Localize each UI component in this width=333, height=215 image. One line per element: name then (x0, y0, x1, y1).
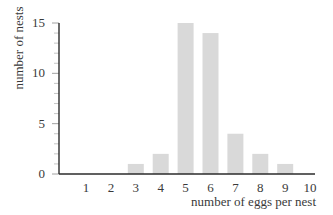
bar-8 (252, 154, 268, 174)
y-tick-label: 15 (32, 15, 45, 30)
x-tick-label: 3 (133, 180, 140, 195)
x-tick-label: 1 (83, 180, 90, 195)
bar-4 (153, 154, 169, 174)
x-tick-label: 6 (207, 180, 214, 195)
x-tick-label: 4 (157, 180, 164, 195)
x-tick-label: 10 (304, 180, 317, 195)
y-tick-label: 10 (32, 65, 45, 80)
bar-7 (227, 134, 243, 174)
y-tick-label: 5 (39, 116, 46, 131)
x-axis-tick-labels: 12345678910 (83, 180, 317, 195)
y-axis-label: number of nests (11, 6, 26, 89)
bar-9 (277, 164, 293, 174)
y-axis-ticks: 051015 (32, 15, 59, 181)
x-tick-label: 5 (182, 180, 189, 195)
bar-3 (128, 164, 144, 174)
y-tick-label: 0 (39, 166, 46, 181)
x-axis-label: number of eggs per nest (191, 194, 316, 209)
bar-6 (203, 33, 219, 174)
x-tick-label: 7 (232, 180, 239, 195)
bar-5 (178, 23, 194, 174)
y-axis-label-group: number of nests (11, 6, 26, 89)
x-tick-label: 9 (282, 180, 289, 195)
x-tick-label: 2 (108, 180, 115, 195)
bars (128, 23, 293, 174)
bar-chart: number of nests 051015 12345678910 numbe… (0, 0, 333, 215)
x-tick-label: 8 (257, 180, 264, 195)
